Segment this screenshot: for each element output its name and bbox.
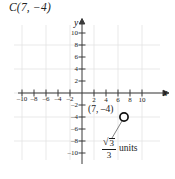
coordinate-plane-figure: C(7, −4) (0, 0, 175, 179)
plot-svg (0, 18, 175, 166)
x-tick-label: 10 (135, 96, 149, 104)
radicand: 3 (109, 138, 116, 148)
y-tick-label: 10 (64, 29, 78, 37)
y-tick-label: –4 (62, 113, 78, 121)
leader-line (112, 121, 122, 138)
y-tick-label: –2 (62, 101, 78, 109)
point-coordinate-label: (7, –4) (88, 104, 113, 114)
plot-area (0, 18, 175, 166)
fraction-numerator: √ 3 (102, 137, 116, 149)
y-axis-label: y (74, 18, 78, 28)
y-tick-label: –6 (62, 125, 78, 133)
x-tick-label: 2 (89, 96, 99, 104)
x-tick-label: 8 (125, 96, 135, 104)
y-tick-label: 6 (64, 53, 78, 61)
x-tick-label: 6 (113, 96, 123, 104)
units-word: units (119, 143, 137, 153)
y-tick-label: 8 (64, 41, 78, 49)
x-axis-label: x (163, 88, 167, 98)
distance-annotation: √ 3 3 units (102, 137, 137, 160)
fraction-denominator: 3 (107, 150, 112, 160)
radical-expression: √ 3 (103, 137, 115, 148)
fraction: √ 3 3 (102, 137, 116, 160)
y-tick-label: 2 (64, 77, 78, 85)
y-tick-label: –10 (60, 149, 78, 157)
page-title: C(7, −4) (9, 1, 51, 13)
y-tick-label: –8 (62, 137, 78, 145)
y-axis (79, 19, 85, 165)
plotted-point-marker (120, 113, 128, 121)
x-tick-label: 4 (101, 96, 111, 104)
y-tick-label: 4 (64, 65, 78, 73)
